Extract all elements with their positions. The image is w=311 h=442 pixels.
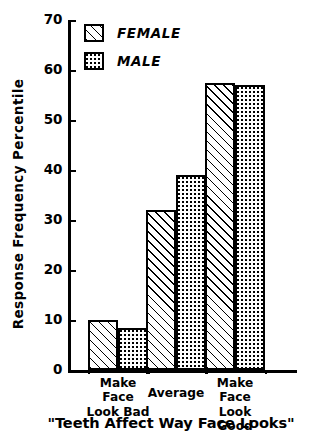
category-label-2: Average — [144, 386, 208, 400]
y-tick-30: 30 — [68, 220, 76, 222]
y-axis-line — [68, 20, 71, 371]
chart-legend: FEMALEMALE — [84, 22, 181, 78]
y-tick-label-50: 50 — [29, 111, 63, 127]
bar-female-group-3 — [205, 83, 235, 371]
y-tick-10: 10 — [68, 320, 76, 322]
y-tick-label-10: 10 — [29, 311, 63, 327]
bar-female-group-1 — [88, 320, 118, 370]
x-tick-group-2-left — [146, 370, 148, 374]
x-tick-group-1-right — [148, 370, 150, 374]
category-label-1: Make Face Look Bad — [86, 376, 150, 419]
bar-male-group-3 — [235, 85, 265, 370]
bar-male-group-2 — [176, 175, 206, 370]
x-axis-line — [68, 370, 297, 373]
x-tick-group-3-left — [205, 370, 207, 374]
bar-female-group-2 — [146, 210, 176, 370]
y-tick-label-20: 20 — [29, 261, 63, 277]
y-tick-70: 70 — [68, 20, 76, 22]
y-tick-50: 50 — [68, 120, 76, 122]
y-tick-40: 40 — [68, 170, 76, 172]
y-tick-label-30: 30 — [29, 211, 63, 227]
y-tick-label-0: 0 — [29, 361, 63, 377]
legend-item-female: FEMALE — [84, 22, 181, 44]
y-tick-label-60: 60 — [29, 61, 63, 77]
x-tick-group-3-right — [265, 370, 267, 374]
x-axis-title: "Teeth Affect Way Face Looks" — [40, 414, 302, 431]
y-tick-60: 60 — [68, 70, 76, 72]
x-tick-group-1-left — [88, 370, 90, 374]
bar-chart-figure: Response Frequency Percentile 0102030405… — [0, 0, 311, 442]
legend-swatch-female — [84, 24, 104, 42]
legend-item-male: MALE — [84, 50, 181, 72]
legend-label-female: FEMALE — [117, 25, 181, 41]
y-tick-20: 20 — [68, 270, 76, 272]
y-tick-0: 0 — [68, 370, 76, 372]
bar-male-group-1 — [118, 328, 148, 371]
legend-swatch-male — [84, 52, 104, 70]
y-axis-title: Response Frequency Percentile — [10, 34, 26, 374]
legend-label-male: MALE — [117, 53, 161, 69]
y-tick-label-40: 40 — [29, 161, 63, 177]
y-tick-label-70: 70 — [29, 11, 63, 27]
